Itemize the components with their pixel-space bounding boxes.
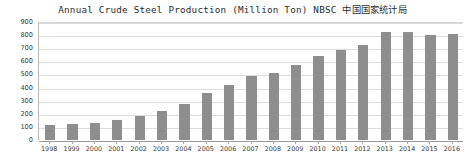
x-tick (228, 141, 229, 144)
y-tick-label: 500 (20, 70, 33, 78)
x-tick (161, 141, 162, 144)
x-tick (183, 141, 184, 144)
x-tick-label: 2009 (287, 145, 303, 153)
y-tick-label: 200 (20, 110, 33, 118)
bar (112, 120, 122, 140)
x-tick-label: 2005 (198, 145, 214, 153)
x-tick-label: 2010 (309, 145, 325, 153)
y-tick-label: 600 (20, 57, 33, 65)
x-tick-label: 2016 (444, 145, 460, 153)
y-tick-label: 300 (20, 97, 33, 105)
bar (403, 32, 413, 140)
bar (202, 93, 212, 140)
x-axis: 1998199920002001200220032004200520062007… (38, 141, 463, 157)
y-tick-label: 400 (20, 84, 33, 92)
bar (224, 85, 234, 140)
y-axis: 0100200300400500600700800900 (0, 0, 36, 162)
y-tick-label: 900 (20, 18, 33, 26)
x-tick (139, 141, 140, 144)
bar (157, 111, 167, 140)
x-tick (251, 141, 252, 144)
y-tick-label: 0 (29, 136, 33, 144)
x-tick-label: 1998 (41, 145, 57, 153)
bar (291, 65, 301, 140)
x-tick-label: 2011 (332, 145, 348, 153)
bar (381, 32, 391, 140)
bar (90, 123, 100, 140)
plot-wrapper: 0100200300400500600700800900 19981999200… (0, 0, 465, 162)
x-tick (385, 141, 386, 144)
x-tick (407, 141, 408, 144)
x-tick-label: 2000 (86, 145, 102, 153)
x-tick-label: 1999 (63, 145, 79, 153)
x-tick (452, 141, 453, 144)
bar (358, 45, 368, 140)
x-tick-label: 2006 (220, 145, 236, 153)
x-tick-label: 2004 (175, 145, 191, 153)
chart-container: Annual Crude Steel Production (Million T… (0, 0, 465, 162)
x-tick (273, 141, 274, 144)
x-tick-label: 2003 (153, 145, 169, 153)
x-tick (295, 141, 296, 144)
bar (269, 73, 279, 140)
x-tick-label: 2008 (265, 145, 281, 153)
x-tick-label: 2015 (421, 145, 437, 153)
x-tick (94, 141, 95, 144)
plot-area (38, 22, 463, 140)
x-tick-label: 2007 (242, 145, 258, 153)
x-tick-label: 2014 (399, 145, 415, 153)
y-tick-label: 100 (20, 123, 33, 131)
x-tick-label: 2012 (354, 145, 370, 153)
x-tick (340, 141, 341, 144)
bar (135, 116, 145, 140)
bar (246, 76, 256, 140)
x-tick (206, 141, 207, 144)
bar (425, 35, 435, 140)
bar (448, 34, 458, 140)
bar (179, 104, 189, 140)
bar (67, 124, 77, 140)
x-tick (72, 141, 73, 144)
bar (336, 50, 346, 140)
x-tick-label: 2001 (108, 145, 124, 153)
y-tick-label: 700 (20, 44, 33, 52)
bar (45, 125, 55, 140)
y-tick-label: 800 (20, 31, 33, 39)
bar (313, 56, 323, 140)
x-tick (116, 141, 117, 144)
x-tick (429, 141, 430, 144)
bar-series (39, 23, 463, 140)
x-tick (49, 141, 50, 144)
x-tick-label: 2002 (131, 145, 147, 153)
x-tick (318, 141, 319, 144)
x-tick-label: 2013 (377, 145, 393, 153)
x-tick (362, 141, 363, 144)
